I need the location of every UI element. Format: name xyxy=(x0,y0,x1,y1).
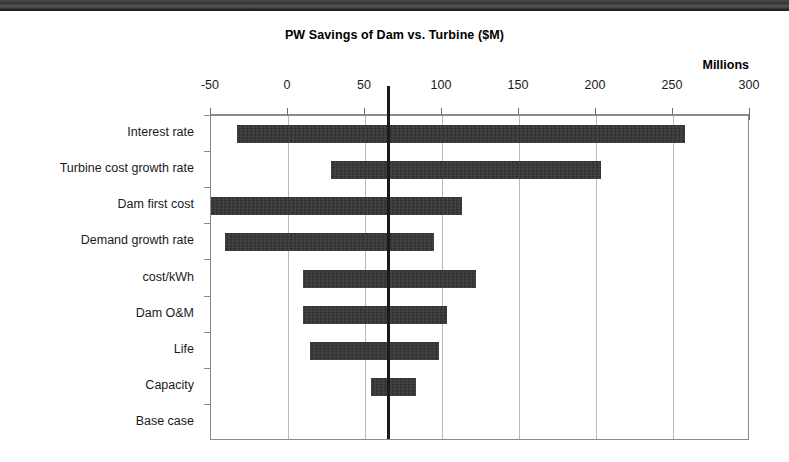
category-label: Demand growth rate xyxy=(0,233,194,247)
category-axis-labels: Interest rateTurbine cost growth rateDam… xyxy=(0,0,202,462)
category-label: Life xyxy=(0,342,194,356)
category-label: Dam first cost xyxy=(0,197,194,211)
tornado-chart: PW Savings of Dam vs. Turbine ($M) Milli… xyxy=(0,0,789,462)
x-axis-tick-label: 100 xyxy=(411,78,471,92)
gridline xyxy=(288,116,289,439)
tornado-bar xyxy=(211,197,462,215)
tornado-bar xyxy=(310,342,439,360)
tornado-bar xyxy=(371,378,416,396)
category-label: cost/kWh xyxy=(0,270,194,284)
x-axis-tick xyxy=(749,108,750,120)
tornado-bar xyxy=(331,161,601,179)
category-label: Interest rate xyxy=(0,125,194,139)
x-axis-tick-label: 200 xyxy=(565,78,625,92)
base-case-reference-line xyxy=(387,86,390,439)
tornado-bar xyxy=(303,306,446,324)
category-label: Turbine cost growth rate xyxy=(0,161,194,175)
x-axis-tick-label: 50 xyxy=(334,78,394,92)
plot-area xyxy=(210,115,749,440)
category-label: Capacity xyxy=(0,378,194,392)
x-axis-tick-label: 0 xyxy=(257,78,317,92)
x-axis-tick-label: 250 xyxy=(642,78,702,92)
x-axis-tick-label: 300 xyxy=(719,78,779,92)
gridline xyxy=(673,116,674,439)
category-label: Base case xyxy=(0,414,194,428)
tornado-bar xyxy=(225,233,434,251)
category-label: Dam O&M xyxy=(0,306,194,320)
tornado-bar xyxy=(237,125,685,143)
units-label: Millions xyxy=(702,58,749,72)
x-axis-tick-label: 150 xyxy=(488,78,548,92)
